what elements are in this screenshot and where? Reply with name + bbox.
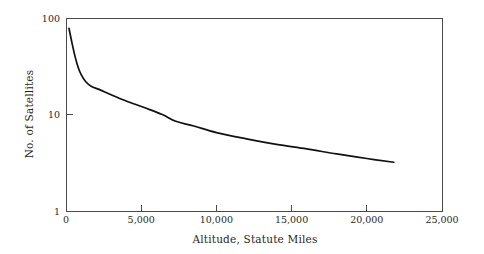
- chart-figure: 05,00010,00015,00020,00025,000 110100 Al…: [0, 0, 484, 254]
- plot-axes: [66, 18, 442, 211]
- x-axis-ticks: [141, 205, 367, 211]
- data-line-satellites: [69, 28, 394, 162]
- data-series-group: [69, 28, 394, 162]
- y-axis-tick-labels: 110100: [42, 13, 60, 217]
- y-axis-title: No. of Satellites: [23, 70, 35, 159]
- y-tick-label: 10: [48, 109, 60, 120]
- x-axis-title: Altitude, Statute Miles: [191, 233, 317, 245]
- x-tick-label: 25,000: [425, 214, 458, 225]
- x-tick-label: 10,000: [200, 214, 233, 225]
- x-tick-label: 0: [63, 214, 69, 225]
- axis-frame: [66, 18, 442, 211]
- y-tick-label: 100: [42, 13, 60, 24]
- x-tick-label: 5,000: [128, 214, 155, 225]
- x-tick-label: 15,000: [275, 214, 308, 225]
- y-tick-label: 1: [54, 206, 60, 217]
- x-axis-tick-labels: 05,00010,00015,00020,00025,000: [63, 214, 459, 225]
- x-tick-label: 20,000: [350, 214, 383, 225]
- chart-canvas: 05,00010,00015,00020,00025,000 110100 Al…: [0, 0, 484, 254]
